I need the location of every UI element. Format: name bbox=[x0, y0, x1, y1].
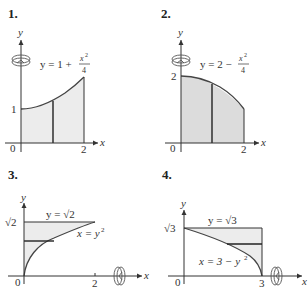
figure-2: 2. y x 0 2 2 y = 2 − x 2 4 bbox=[161, 6, 266, 155]
figure-4-y-label: y bbox=[180, 197, 186, 209]
figure-4-origin-label: 0 bbox=[175, 276, 181, 288]
figure-2-equation-den: 4 bbox=[241, 66, 245, 75]
figure-1-x-label: x bbox=[99, 136, 105, 148]
figure-2-tick-x: 2 bbox=[241, 143, 247, 155]
figure-2-equation-exp: 2 bbox=[244, 52, 247, 58]
figure-1: 1. y x 0 2 1 y = 1 + x 2 4 bbox=[5, 6, 105, 155]
figure-3-tick-x: 2 bbox=[92, 277, 98, 289]
figure-4-x-label: x bbox=[301, 275, 307, 287]
figures-canvas: 1. y x 0 2 1 y = 1 + x 2 4 2. bbox=[0, 0, 308, 302]
figure-3-origin-label: 0 bbox=[15, 276, 21, 288]
figure-4-equation-curve: x = 3 − y bbox=[198, 255, 240, 267]
figure-1-equation-den: 4 bbox=[82, 66, 86, 75]
figure-3-tick-y: √2 bbox=[5, 216, 17, 228]
figure-4: 4. y x 0 3 √3 y = √3 x = 3 − y 2 bbox=[162, 167, 307, 289]
figure-2-origin-label: 0 bbox=[170, 142, 176, 154]
figure-1-equation-exp: 2 bbox=[85, 52, 88, 58]
figure-4-equation-exp: 2 bbox=[244, 254, 248, 262]
figure-1-equation-num: x bbox=[79, 54, 84, 63]
figure-2-tick-y: 2 bbox=[171, 70, 177, 82]
figure-1-number: 1. bbox=[8, 6, 18, 21]
figure-3-number: 3. bbox=[8, 167, 18, 182]
figure-1-tick-y: 1 bbox=[11, 103, 17, 115]
figure-1-tick-x: 2 bbox=[81, 143, 87, 155]
figure-4-number: 4. bbox=[162, 167, 172, 182]
figure-1-y-label: y bbox=[17, 26, 23, 38]
figure-3: 3. y x 0 2 √2 y = √2 x = y 2 bbox=[5, 167, 149, 289]
figure-2-x-label: x bbox=[260, 136, 266, 148]
figure-1-equation-lhs: y = 1 + bbox=[40, 58, 72, 70]
figure-4-tick-x: 3 bbox=[259, 277, 265, 289]
figure-4-equation-top: y = √3 bbox=[208, 214, 237, 226]
figure-3-equation-top: y = √2 bbox=[46, 208, 75, 220]
figure-4-tick-y: √3 bbox=[164, 222, 176, 234]
figure-3-x-label: x bbox=[143, 269, 149, 281]
figure-3-equation-exp: 2 bbox=[101, 226, 105, 234]
figure-3-y-label: y bbox=[20, 191, 26, 203]
figure-2-y-label: y bbox=[177, 26, 183, 38]
figure-2-equation-lhs: y = 2 − bbox=[200, 58, 232, 70]
figure-2-equation-num: x bbox=[238, 54, 243, 63]
figure-4-region bbox=[184, 228, 262, 276]
figure-1-origin-label: 0 bbox=[10, 142, 16, 154]
figure-3-equation-curve: x = y bbox=[76, 227, 100, 239]
figure-2-number: 2. bbox=[161, 6, 171, 21]
